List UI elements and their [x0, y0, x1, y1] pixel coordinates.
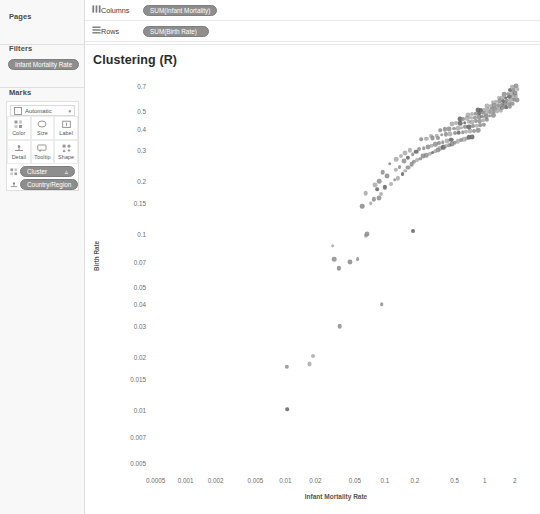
data-point[interactable] [380, 170, 385, 175]
data-point[interactable] [360, 204, 365, 209]
marks-button-label[interactable]: Label [54, 116, 78, 140]
y-axis-tick: 0.007 [130, 434, 146, 441]
encoding-pill-cluster-label: Cluster [27, 168, 47, 175]
x-axis-label: Infant Mortality Rate [305, 493, 367, 500]
rows-shelf[interactable]: Rows SUM(Birth Rate) [85, 21, 540, 42]
data-point[interactable] [403, 151, 408, 156]
data-point[interactable] [389, 182, 393, 186]
x-axis-tick: 0.001 [178, 477, 194, 484]
data-point[interactable] [348, 259, 353, 264]
data-point[interactable] [286, 408, 290, 412]
y-axis-tick: 0.5 [137, 108, 146, 115]
marks-button-grid: Color Size [7, 116, 78, 164]
x-axis-tick: 0.1 [381, 477, 390, 484]
filter-pill-infant-mortality-rate[interactable]: Infant Mortality Rate [8, 59, 79, 70]
scatter-plot[interactable]: Birth Rate 0.70.50.40.30.20.150.10.070.0… [86, 71, 540, 514]
data-point[interactable] [385, 173, 390, 178]
marks-button-tooltip[interactable]: Tooltip [31, 140, 55, 164]
chevron-down-icon: ▾ [68, 108, 71, 114]
x-axis-tick: 0.5 [450, 477, 459, 484]
data-point[interactable] [285, 365, 289, 369]
data-point[interactable] [419, 137, 423, 141]
encoding-row-cluster[interactable]: Cluster ▵ [10, 166, 78, 177]
data-point[interactable] [440, 133, 444, 137]
marks-title: Marks [0, 88, 85, 97]
pages-shelf[interactable]: Pages [0, 12, 85, 45]
x-axis-tick: 1 [483, 477, 487, 484]
mark-type-selector[interactable]: Automatic ▾ [10, 105, 75, 116]
data-point[interactable] [449, 138, 454, 143]
data-point[interactable] [406, 156, 410, 160]
data-point[interactable] [447, 126, 452, 131]
data-point[interactable] [388, 162, 392, 166]
data-point[interactable] [307, 361, 312, 366]
data-point[interactable] [380, 302, 384, 306]
encoding-row-country-region[interactable]: Country/Region [10, 179, 78, 190]
data-point[interactable] [439, 128, 443, 132]
data-point[interactable] [476, 128, 481, 133]
filters-shelf[interactable]: Filters Infant Mortality Rate [0, 44, 85, 88]
data-point[interactable] [417, 147, 421, 151]
columns-pill-sum-infant-mortality[interactable]: SUM(Infant Mortality) [143, 5, 217, 16]
data-point[interactable] [332, 257, 337, 262]
data-point[interactable] [411, 229, 415, 233]
rows-pill-sum-birth-rate[interactable]: SUM(Birth Rate) [143, 26, 209, 37]
data-point[interactable] [337, 324, 342, 329]
left-panel: Pages Filters Infant Mortality Rate Mark… [0, 0, 85, 514]
data-point[interactable] [482, 123, 486, 127]
data-point[interactable] [398, 165, 402, 169]
detail-icon [14, 144, 24, 153]
pages-dropzone[interactable] [5, 24, 80, 40]
encoding-pill-cluster[interactable]: Cluster ▵ [20, 166, 75, 177]
marks-button-detail[interactable]: Detail [7, 140, 31, 164]
data-point[interactable] [372, 183, 377, 188]
marks-button-detail-label: Detail [12, 154, 26, 160]
data-point[interactable] [470, 134, 475, 139]
marks-button-size[interactable]: Size [31, 116, 55, 140]
y-axis-tick: 0.01 [134, 407, 146, 414]
marks-button-shape[interactable]: Shape [54, 140, 78, 164]
marks-button-color-label: Color [12, 130, 25, 136]
columns-shelf[interactable]: Columns SUM(Infant Mortality) [85, 0, 540, 21]
data-point[interactable] [331, 244, 335, 248]
color-icon [14, 120, 23, 129]
x-axis-tick: 0.05 [349, 477, 361, 484]
y-axis-tick: 0.3 [137, 147, 146, 154]
mark-type-label: Automatic [25, 108, 68, 114]
x-axis-tick: 0.01 [279, 477, 291, 484]
y-axis-tick: 0.03 [134, 323, 146, 330]
data-point[interactable] [311, 354, 315, 358]
sort-badge-icon: ▵ [65, 168, 68, 176]
data-point[interactable] [513, 84, 518, 89]
data-point[interactable] [369, 202, 373, 206]
data-point[interactable] [363, 191, 368, 196]
label-icon [62, 120, 71, 129]
data-point[interactable] [401, 172, 405, 176]
y-axis-tick: 0.7 [137, 82, 146, 89]
detail-icon [10, 181, 18, 189]
y-axis-tick: 0.04 [134, 301, 146, 308]
data-point[interactable] [365, 232, 370, 237]
encoding-pill-country-region-label: Country/Region [27, 181, 71, 188]
data-point[interactable] [424, 137, 428, 141]
encoding-pill-country-region[interactable]: Country/Region [20, 179, 78, 190]
data-point[interactable] [383, 185, 387, 189]
pages-title: Pages [0, 12, 85, 21]
data-point[interactable] [401, 159, 406, 164]
y-axis-tick: 0.07 [134, 258, 146, 265]
data-point[interactable] [377, 179, 382, 184]
marks-card: Marks Automatic ▾ [0, 88, 85, 198]
data-point[interactable] [376, 196, 381, 201]
data-point[interactable] [434, 133, 439, 138]
shelves-area: Columns SUM(Infant Mortality) Rows SUM(B… [85, 0, 540, 44]
data-point[interactable] [337, 266, 341, 270]
data-point[interactable] [379, 192, 383, 196]
marks-button-color[interactable]: Color [7, 116, 31, 140]
data-point[interactable] [394, 157, 399, 162]
filters-title: Filters [0, 44, 85, 53]
data-point[interactable] [356, 257, 360, 261]
data-point[interactable] [396, 176, 400, 180]
data-point[interactable] [376, 188, 380, 192]
data-point[interactable] [429, 134, 433, 138]
y-axis-tick: 0.2 [137, 178, 146, 185]
